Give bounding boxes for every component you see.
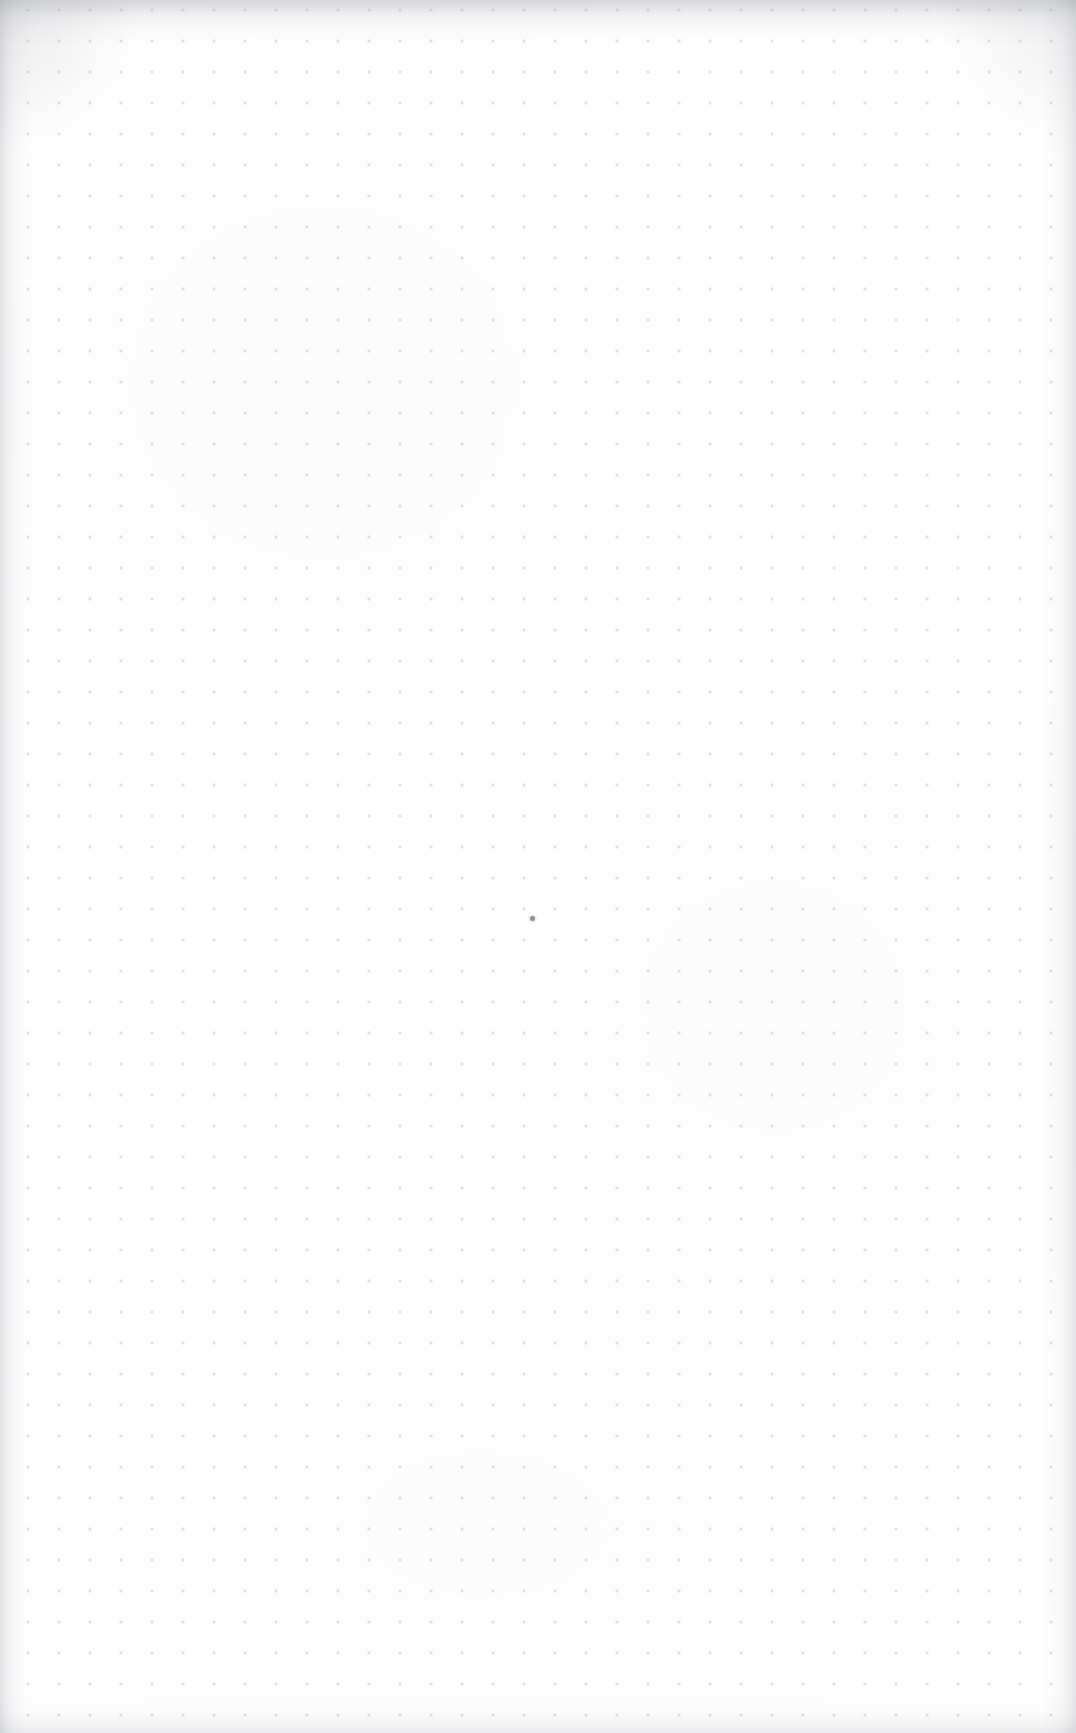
notebook-page <box>0 0 1076 1733</box>
ink-dot-mark <box>530 916 535 921</box>
dot-grid <box>0 0 1076 1733</box>
